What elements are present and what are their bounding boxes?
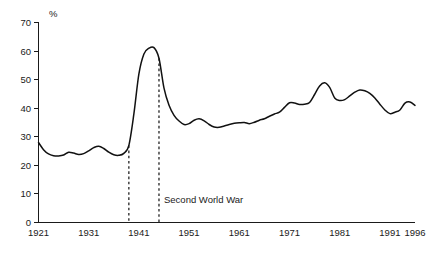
x-tick-label-1921: 1921: [28, 227, 49, 238]
y-tick-label-20: 20: [20, 160, 31, 171]
x-tick-label-1961: 1961: [229, 227, 250, 238]
x-tick-label-1981: 1981: [329, 227, 350, 238]
y-tick-label-70: 70: [20, 17, 31, 28]
second-world-war-annotation-label: Second World War: [164, 194, 243, 205]
x-tick-label-1971: 1971: [279, 227, 300, 238]
chart-container: % 70 60 50 40 30 20 10 0 1921 1931 1941 …: [0, 0, 431, 258]
y-tick-label-50: 50: [20, 74, 31, 85]
second-world-war-markers: [129, 58, 159, 222]
x-tick-label-1941: 1941: [128, 227, 149, 238]
y-tick-label-10: 10: [20, 188, 31, 199]
x-tick-label-1996: 1996: [404, 227, 425, 238]
y-axis-unit-label: %: [49, 8, 58, 19]
line-chart: % 70 60 50 40 30 20 10 0 1921 1931 1941 …: [0, 0, 431, 258]
y-tick-label-60: 60: [20, 46, 31, 57]
x-tick-label-1991: 1991: [379, 227, 400, 238]
x-tick-label-1931: 1931: [78, 227, 99, 238]
y-tick-label-30: 30: [20, 131, 31, 142]
y-tick-label-40: 40: [20, 103, 31, 114]
data-series-line: [39, 47, 416, 156]
x-tick-label-1951: 1951: [179, 227, 200, 238]
